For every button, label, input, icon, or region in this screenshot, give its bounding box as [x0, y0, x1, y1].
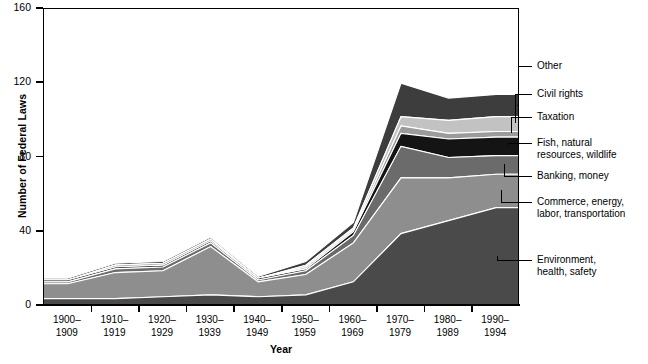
legend-leader-line: [504, 164, 505, 176]
legend-leader-line: [511, 117, 512, 133]
y-tick-label: 0: [0, 298, 31, 310]
y-tick-label: 80: [0, 150, 31, 162]
y-tick-label: 160: [0, 1, 31, 13]
y-tick-mark: [36, 304, 43, 306]
legend-leader-line: [518, 66, 519, 105]
x-tick-mark: [233, 305, 235, 312]
x-tick-mark: [138, 305, 140, 312]
legend-label: Commerce, energy, labor, transportation: [537, 196, 625, 220]
stacked-area-layers: [44, 9, 518, 305]
legend-label: Banking, money: [537, 170, 609, 182]
legend-label: Other: [537, 60, 562, 72]
legend-label: Civil rights: [537, 88, 583, 100]
legend-leader-line: [515, 94, 516, 123]
x-tick-mark: [424, 305, 426, 312]
y-tick-mark: [36, 156, 43, 158]
plot-area: [43, 8, 519, 305]
y-tick-mark: [36, 230, 43, 232]
x-tick-mark: [471, 305, 473, 312]
legend-leader-line: [497, 260, 532, 261]
legend-leader-line: [517, 105, 518, 106]
x-tick-label: 1990– 1994: [460, 314, 530, 339]
x-tick-mark: [376, 305, 378, 312]
y-tick-mark: [36, 81, 43, 83]
legend-leader-line: [518, 66, 532, 67]
x-axis-title: Year: [43, 343, 519, 355]
y-tick-mark: [36, 7, 43, 9]
x-tick-mark: [281, 305, 283, 312]
legend-label: Taxation: [537, 111, 574, 123]
legend-leader-line: [501, 190, 502, 202]
area-series-svg: [44, 9, 518, 305]
legend-leader-line: [508, 143, 533, 144]
legend-label: Environment, health, safety: [537, 254, 596, 278]
y-tick-label: 40: [0, 224, 31, 236]
x-tick-mark: [186, 305, 188, 312]
legend-leader-line: [497, 256, 498, 260]
y-tick-label: 120: [0, 75, 31, 87]
legend-label: Fish, natural resources, wildlife: [537, 137, 616, 161]
legend-leader-line: [515, 94, 533, 95]
legend-leader-line: [511, 117, 532, 118]
x-tick-mark: [91, 305, 93, 312]
legend-leader-line: [501, 202, 533, 203]
legend-leader-line: [504, 176, 532, 177]
x-tick-mark: [329, 305, 331, 312]
legend-leader-line: [508, 143, 509, 145]
chart-figure: Number of Federal Laws 04080120160 1900–…: [0, 0, 648, 364]
